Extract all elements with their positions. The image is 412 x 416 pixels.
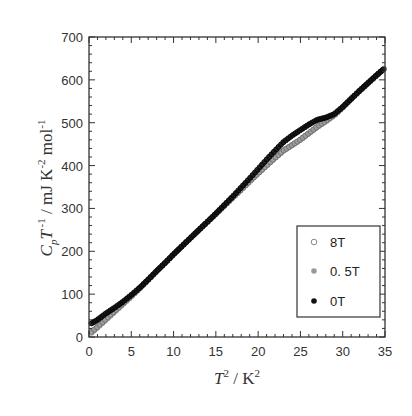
y-tick-label: 400	[61, 159, 83, 174]
x-tick-label: 30	[335, 344, 349, 359]
y-axis-title: CpT -1 / mJ K-2 mol-1	[35, 120, 59, 257]
open-circle-icon	[311, 239, 317, 245]
x-tick-label: 20	[251, 344, 265, 359]
y-tick-label: 100	[61, 287, 83, 302]
heat-capacity-chart: 05101520253035 0100200300400500600700 T2…	[0, 0, 412, 416]
legend-label: 8T	[330, 235, 345, 250]
y-tick-label: 200	[61, 244, 83, 259]
y-tick-label: 300	[61, 201, 83, 216]
legend-label: 0T	[330, 294, 345, 309]
y-tick-label: 500	[61, 116, 83, 131]
x-tick-label: 10	[166, 344, 180, 359]
y-tick-label: 600	[61, 73, 83, 88]
legend-label: 0. 5T	[330, 264, 360, 279]
x-tick-label: 25	[293, 344, 307, 359]
x-tick-label: 15	[209, 344, 223, 359]
x-tick-label: 35	[378, 344, 392, 359]
x-tick-label: 0	[85, 344, 92, 359]
y-tick-label: 0	[76, 330, 83, 345]
filled-circle-icon	[311, 298, 317, 304]
x-axis-title: T2 / K2	[214, 367, 260, 388]
gray-circle-icon	[311, 268, 317, 274]
x-tick-label: 5	[128, 344, 135, 359]
y-tick-label: 700	[61, 30, 83, 45]
legend: 8T 0. 5T 0T	[297, 226, 380, 317]
